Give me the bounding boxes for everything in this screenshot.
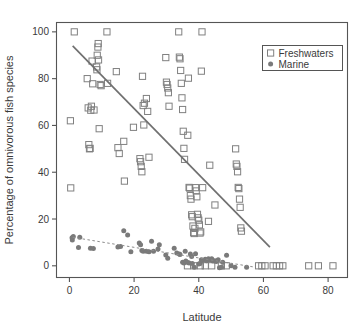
data-point-freshwaters [194, 194, 200, 200]
data-point-marine [156, 246, 161, 251]
data-point-freshwaters [178, 67, 184, 73]
data-point-freshwaters [199, 29, 205, 35]
data-point-freshwaters [330, 263, 336, 269]
data-point-freshwaters [68, 185, 74, 191]
data-point-freshwaters [198, 68, 204, 74]
data-point-marine [183, 249, 188, 254]
data-point-freshwaters [116, 150, 122, 156]
x-axis-tick-label: 60 [258, 285, 270, 296]
legend-marker-marine [268, 62, 273, 67]
data-point-freshwaters [212, 202, 218, 208]
data-point-freshwaters [205, 218, 211, 224]
data-point-marine [149, 239, 154, 244]
data-point-freshwaters [146, 154, 152, 160]
y-axis-tick-label: 80 [38, 73, 50, 84]
data-point-freshwaters [71, 29, 77, 35]
x-axis-tick-label: 20 [129, 285, 141, 296]
data-point-marine [165, 256, 170, 261]
data-point-freshwaters [237, 204, 243, 210]
x-axis-tick-label: 80 [323, 285, 335, 296]
data-point-freshwaters [96, 126, 102, 132]
data-point-freshwaters [180, 106, 186, 112]
y-axis-tick-label: 100 [32, 26, 49, 37]
scatter-plot: 020406080020406080100LatitudePercentage … [0, 0, 358, 330]
data-point-freshwaters [178, 80, 184, 86]
data-point-freshwaters [179, 95, 185, 101]
data-point-freshwaters [176, 29, 182, 35]
y-axis-tick-label: 20 [38, 214, 50, 225]
x-axis-label: Latitude [182, 311, 221, 323]
data-point-marine [216, 257, 221, 262]
data-point-freshwaters [163, 54, 169, 60]
data-point-marine [157, 242, 162, 247]
chart-figure: 020406080020406080100LatitudePercentage … [0, 0, 358, 330]
data-point-freshwaters [185, 75, 191, 81]
data-point-marine [232, 265, 237, 270]
data-point-marine [151, 249, 156, 254]
legend-label: Freshwaters [279, 48, 334, 59]
data-point-marine [71, 234, 76, 239]
data-point-freshwaters [115, 145, 121, 151]
data-point-freshwaters [306, 263, 312, 269]
data-point-freshwaters [141, 122, 147, 128]
x-axis-tick-label: 0 [67, 285, 73, 296]
data-point-freshwaters [143, 95, 149, 101]
data-point-freshwaters [166, 103, 172, 109]
data-point-marine [128, 249, 133, 254]
data-point-freshwaters [130, 124, 136, 130]
data-point-marine [193, 251, 198, 256]
y-axis-tick-label: 0 [43, 260, 49, 271]
data-point-freshwaters [315, 263, 321, 269]
data-point-marine [125, 232, 130, 237]
y-axis-tick-label: 60 [38, 120, 50, 131]
data-point-freshwaters [209, 263, 215, 269]
x-axis-tick-label: 40 [193, 285, 205, 296]
data-point-freshwaters [233, 146, 239, 152]
data-point-marine [91, 246, 96, 251]
data-point-freshwaters [180, 128, 186, 134]
y-axis-tick-label: 40 [38, 167, 50, 178]
data-point-freshwaters [104, 29, 110, 35]
data-point-freshwaters [113, 69, 119, 75]
data-point-freshwaters [190, 223, 196, 229]
legend-label: Marine [279, 59, 310, 70]
marine-regression [73, 237, 254, 267]
data-point-marine [77, 235, 82, 240]
data-point-freshwaters [181, 145, 187, 151]
data-point-marine [219, 265, 224, 270]
data-point-freshwaters [207, 162, 213, 168]
data-point-marine [138, 242, 143, 247]
legend: FreshwatersMarine [263, 46, 343, 71]
data-point-freshwaters [139, 73, 145, 79]
data-point-freshwaters [145, 108, 151, 114]
data-point-freshwaters [185, 132, 191, 138]
data-point-freshwaters [67, 118, 73, 124]
series-marine [70, 228, 250, 270]
data-point-marine [192, 265, 197, 270]
data-point-freshwaters [121, 178, 127, 184]
freshwaters-regression [73, 46, 270, 247]
data-point-freshwaters [200, 185, 206, 191]
y-axis-label: Percentage of omnivorous fish species [3, 55, 15, 244]
data-point-marine [224, 253, 229, 258]
data-point-freshwaters [236, 196, 242, 202]
data-point-marine [76, 245, 81, 250]
data-point-marine [172, 246, 177, 251]
data-point-marine [121, 228, 126, 233]
data-point-freshwaters [121, 138, 127, 144]
